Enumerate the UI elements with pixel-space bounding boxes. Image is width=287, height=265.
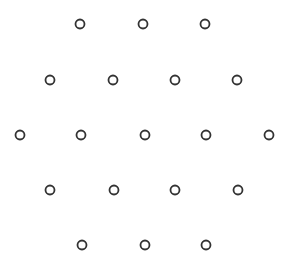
hollow-circle-icon (171, 76, 180, 85)
hollow-circle-icon (202, 241, 211, 250)
circle-row-1 (76, 20, 210, 29)
hollow-circle-icon (46, 76, 55, 85)
hollow-circle-icon (265, 131, 274, 140)
hollow-circle-icon (202, 131, 211, 140)
hollow-circle-icon (201, 20, 210, 29)
hollow-circle-icon (109, 76, 118, 85)
hollow-circle-icon (233, 76, 242, 85)
hollow-circle-icon (141, 241, 150, 250)
hollow-circle-icon (78, 241, 87, 250)
circle-row-4 (46, 186, 243, 195)
hollow-circle-icon (171, 186, 180, 195)
hollow-circle-icon (46, 186, 55, 195)
hollow-circle-icon (77, 131, 86, 140)
circle-row-5 (78, 241, 211, 250)
hollow-circle-icon (141, 131, 150, 140)
hollow-circle-icon (139, 20, 148, 29)
circle-row-3 (16, 131, 274, 140)
hollow-circle-icon (16, 131, 25, 140)
hexagonal-dot-pattern (0, 0, 287, 265)
hollow-circle-icon (110, 186, 119, 195)
hollow-circle-icon (234, 186, 243, 195)
hollow-circle-icon (76, 20, 85, 29)
circle-row-2 (46, 76, 242, 85)
